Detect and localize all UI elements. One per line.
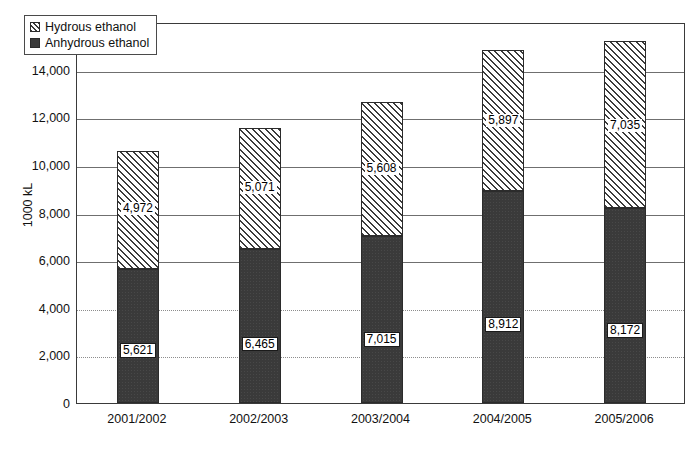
bar-group[interactable]: 8,1727,035 bbox=[604, 41, 646, 403]
bar-value-label-hydrous: 4,972 bbox=[121, 202, 155, 215]
bar-value-label-hydrous: 5,071 bbox=[243, 181, 277, 194]
x-axis-tick-label: 2004/2005 bbox=[441, 412, 563, 426]
bar-segment-anhydrous[interactable]: 8,172 bbox=[604, 208, 646, 403]
bar-value-label-hydrous: 5,608 bbox=[364, 162, 398, 175]
chart-legend: Hydrous ethanolAnhydrous ethanol bbox=[24, 15, 157, 55]
legend-item-anhydrous[interactable]: Anhydrous ethanol bbox=[30, 35, 149, 51]
anhydrous-swatch-icon bbox=[30, 38, 40, 48]
bar-segment-anhydrous[interactable]: 6,465 bbox=[239, 249, 281, 403]
bar-value-label-hydrous: 7,035 bbox=[608, 119, 642, 132]
y-axis-tick-label: 0 bbox=[4, 398, 70, 411]
stacked-bar-chart: 1000 kL 16,00014,00012,00010,0008,0006,0… bbox=[0, 0, 694, 449]
bar-value-label-anhydrous: 8,912 bbox=[485, 317, 521, 332]
y-axis-tick-label: 6,000 bbox=[4, 255, 70, 268]
y-axis-tick-label: 8,000 bbox=[4, 208, 70, 221]
x-axis-tick-label: 2003/2004 bbox=[320, 412, 442, 426]
y-axis-tick-labels: 16,00014,00012,00010,0008,0006,0004,0002… bbox=[0, 0, 70, 449]
bar-segment-anhydrous[interactable]: 7,015 bbox=[361, 236, 403, 403]
legend-item-hydrous[interactable]: Hydrous ethanol bbox=[30, 19, 149, 35]
bar-value-label-anhydrous: 7,015 bbox=[363, 332, 399, 347]
legend-item-label: Anhydrous ethanol bbox=[45, 35, 149, 51]
x-axis-tick-label: 2001/2002 bbox=[76, 412, 198, 426]
y-axis-tick-label: 4,000 bbox=[4, 303, 70, 316]
bar-segment-hydrous[interactable]: 5,071 bbox=[239, 128, 281, 249]
hydrous-swatch-icon bbox=[30, 22, 40, 32]
y-axis-tick-label: 2,000 bbox=[4, 350, 70, 363]
y-axis-tick-label: 12,000 bbox=[4, 112, 70, 125]
y-axis-tick-label: 10,000 bbox=[4, 160, 70, 173]
x-axis-tick-labels: 2001/20022002/20032003/20042004/20052005… bbox=[76, 412, 685, 436]
bar-segment-anhydrous[interactable]: 5,621 bbox=[117, 269, 159, 403]
bar-value-label-anhydrous: 5,621 bbox=[120, 343, 156, 358]
bar-group[interactable]: 8,9125,897 bbox=[482, 50, 524, 403]
bar-segment-hydrous[interactable]: 7,035 bbox=[604, 41, 646, 209]
bar-value-label-anhydrous: 6,465 bbox=[242, 337, 278, 352]
x-axis-tick-label: 2005/2006 bbox=[563, 412, 685, 426]
bar-series-container: 5,6214,9726,4655,0717,0155,6088,9125,897… bbox=[77, 24, 684, 403]
bar-group[interactable]: 6,4655,071 bbox=[239, 128, 281, 403]
y-axis-tick-label: 14,000 bbox=[4, 65, 70, 78]
bar-value-label-anhydrous: 8,172 bbox=[607, 323, 643, 338]
legend-item-label: Hydrous ethanol bbox=[45, 19, 136, 35]
bar-segment-hydrous[interactable]: 4,972 bbox=[117, 151, 159, 269]
bar-group[interactable]: 5,6214,972 bbox=[117, 151, 159, 403]
plot-area: 5,6214,9726,4655,0717,0155,6088,9125,897… bbox=[76, 23, 685, 404]
bar-segment-hydrous[interactable]: 5,897 bbox=[482, 50, 524, 190]
bar-value-label-hydrous: 5,897 bbox=[486, 114, 520, 127]
bar-group[interactable]: 7,0155,608 bbox=[361, 102, 403, 403]
bar-segment-anhydrous[interactable]: 8,912 bbox=[482, 191, 524, 403]
x-axis-tick-label: 2002/2003 bbox=[198, 412, 320, 426]
bar-segment-hydrous[interactable]: 5,608 bbox=[361, 102, 403, 236]
